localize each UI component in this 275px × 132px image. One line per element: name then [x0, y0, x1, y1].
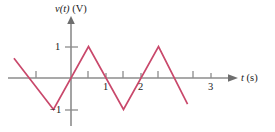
x-axis-title-variable: t: [241, 72, 244, 83]
y-axis-arrow-icon: [67, 16, 75, 24]
y-tick-label-1: 1: [55, 42, 60, 53]
x-axis-arrow-icon: [228, 74, 238, 82]
waveform-figure: v(t) (V) t (s) 1 2 3 1 −1: [0, 0, 275, 132]
x-axis-title: t (s): [241, 73, 258, 84]
y-axis-title-unit: (V): [72, 3, 87, 14]
x-tick-label-1: 1: [103, 82, 108, 93]
y-axis-title-variable: v(t): [55, 3, 70, 14]
y-tick-label-minus1: −1: [50, 105, 61, 116]
plot-canvas: [0, 0, 275, 132]
x-tick-label-2: 2: [138, 82, 143, 93]
x-tick-label-3: 3: [208, 82, 213, 93]
x-axis-title-unit: (s): [247, 72, 258, 83]
y-axis-title: v(t) (V): [55, 4, 87, 15]
